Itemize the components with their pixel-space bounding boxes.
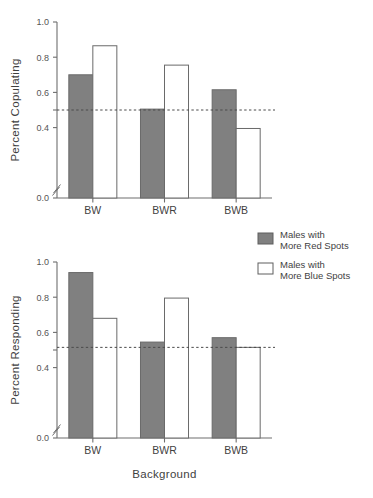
bar-top-panel-BW-red bbox=[69, 75, 93, 198]
figure-root: 0.00.40.60.81.0BWBWRBWBPercent Copulatin… bbox=[0, 0, 373, 498]
chart-panel-top-panel: 0.00.40.60.81.0BWBWRBWBPercent Copulatin… bbox=[9, 17, 275, 216]
legend-swatch-blue-spots bbox=[258, 263, 273, 274]
axis-break-slash-2 bbox=[53, 187, 60, 196]
y-tick-label: 0.4 bbox=[36, 363, 49, 373]
y-axis-title-bottom-panel: Percent Responding bbox=[9, 295, 21, 405]
legend-label-line1-0: Males with bbox=[280, 229, 325, 240]
x-tick-label-BW: BW bbox=[84, 204, 101, 216]
bar-bottom-panel-BWB-red bbox=[212, 338, 236, 438]
legend-label-line2-1: More Blue Spots bbox=[280, 270, 350, 281]
axis-break-slash-2 bbox=[53, 427, 60, 436]
bar-top-panel-BW-blue bbox=[93, 46, 117, 198]
y-tick-label: 0.4 bbox=[36, 123, 49, 133]
bar-bottom-panel-BWR-red bbox=[140, 342, 164, 438]
y-tick-label: 0.8 bbox=[36, 293, 49, 303]
bar-bottom-panel-BW-red bbox=[69, 273, 93, 438]
bar-top-panel-BWR-blue bbox=[165, 65, 189, 198]
y-tick-label: 0.0 bbox=[36, 193, 49, 203]
y-axis-title-top-panel: Percent Copulating bbox=[9, 58, 21, 161]
y-tick-label: 1.0 bbox=[36, 17, 49, 27]
legend-label-line1-1: Males with bbox=[280, 259, 325, 270]
y-tick-label: 0.0 bbox=[36, 433, 49, 443]
x-axis-title-bottom-panel: Background bbox=[132, 468, 196, 480]
x-tick-label-BWB: BWB bbox=[224, 444, 248, 456]
x-tick-label-BWB: BWB bbox=[224, 204, 248, 216]
bar-bottom-panel-BWB-blue bbox=[236, 347, 260, 438]
bar-chart-figure: 0.00.40.60.81.0BWBWRBWBPercent Copulatin… bbox=[0, 0, 373, 498]
y-tick-label: 0.6 bbox=[36, 328, 49, 338]
y-tick-label: 0.8 bbox=[36, 53, 49, 63]
legend-label-line2-0: More Red Spots bbox=[280, 240, 349, 251]
y-tick-label: 0.6 bbox=[36, 88, 49, 98]
legend: Males withMore Red SpotsMales withMore B… bbox=[258, 229, 350, 281]
bar-top-panel-BWB-red bbox=[212, 90, 236, 198]
chart-panel-bottom-panel: 0.00.40.60.81.0BWBWRBWBPercent Respondin… bbox=[9, 257, 275, 480]
x-tick-label-BWR: BWR bbox=[152, 204, 177, 216]
x-tick-label-BWR: BWR bbox=[152, 444, 177, 456]
bar-bottom-panel-BWR-blue bbox=[165, 298, 189, 438]
y-tick-label: 1.0 bbox=[36, 257, 49, 267]
x-tick-label-BW: BW bbox=[84, 444, 101, 456]
legend-swatch-red-spots bbox=[258, 233, 273, 244]
bar-top-panel-BWR-red bbox=[140, 109, 164, 198]
bar-bottom-panel-BW-blue bbox=[93, 318, 117, 438]
bar-top-panel-BWB-blue bbox=[236, 128, 260, 198]
